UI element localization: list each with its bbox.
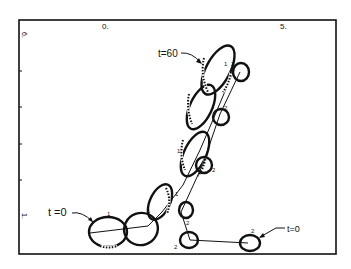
right-cells xyxy=(179,63,260,251)
y-tick-6: 6. xyxy=(21,32,28,38)
svg-text:2: 2 xyxy=(251,228,255,234)
arrowhead-right-t0 xyxy=(259,233,265,238)
svg-text:1: 1 xyxy=(224,61,228,67)
svg-text:1: 1 xyxy=(175,191,179,197)
x-tick-5: 5. xyxy=(280,22,287,31)
label-left-t0: t =0 xyxy=(48,206,67,218)
label-t60: t=60 xyxy=(158,48,178,59)
svg-text:2: 2 xyxy=(212,167,216,173)
svg-text:2: 2 xyxy=(224,105,228,111)
label-right-t0: t=0 xyxy=(287,224,300,234)
svg-text:1: 1 xyxy=(147,208,151,214)
left-cells xyxy=(89,41,241,250)
svg-text:2: 2 xyxy=(174,244,178,250)
y-tick-1: 1. xyxy=(21,213,28,219)
svg-text:2: 2 xyxy=(186,220,190,226)
trajectory-diagram: 0. 5. 6. 1. xyxy=(0,0,351,269)
x-tick-0: 0. xyxy=(102,22,109,31)
